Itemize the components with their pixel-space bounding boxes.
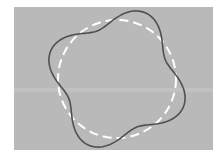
background-panel bbox=[14, 7, 213, 150]
diagram-figure bbox=[0, 0, 222, 157]
